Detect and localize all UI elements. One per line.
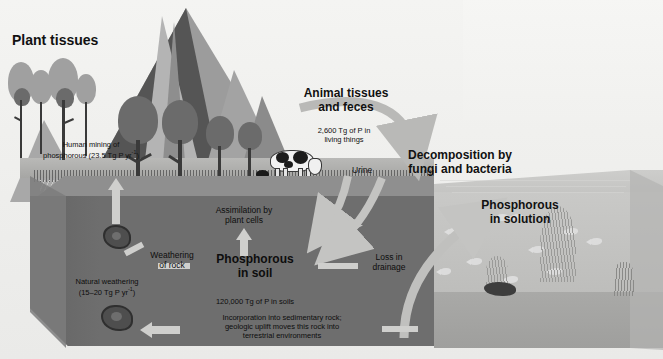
animal-tissues-line1: Animal tissues: [304, 86, 389, 100]
phosphorous-in-solution-line1: Phosphorous: [481, 198, 558, 212]
paper-tint: [463, 0, 663, 120]
water-right-bevel: [630, 170, 663, 350]
water-ripple: [452, 192, 624, 193]
fish-icon: [586, 238, 602, 245]
decomposition-line1: Decomposition by: [408, 148, 512, 162]
label-human-mining: Human mining of phosphorous (23.5 Tg P y…: [16, 140, 166, 160]
phosphorus-cycle-diagram: Plant tissues Human mining of phosphorou…: [0, 0, 663, 359]
natural-weathering-close: ): [133, 288, 136, 297]
decomposition-line2: fungi and bacteria: [408, 162, 511, 176]
water-ripple: [440, 180, 630, 181]
human-mining-close: ): [136, 151, 139, 160]
loss-drainage-line1: Loss in: [376, 252, 403, 262]
sedimentary-arrow-stem: [152, 326, 180, 334]
weathering-arrow-stem: [112, 188, 120, 224]
sedimentary-line3: terrestrial environments: [243, 331, 321, 340]
soil-to-drainage-bar: [318, 263, 358, 269]
anemone-icon: [614, 262, 634, 296]
natural-weathering-line2: (15–20 Tg P yr: [79, 288, 128, 297]
phosphorous-in-soil-line2: in soil: [238, 266, 273, 280]
label-plant-tissues: Plant tissues: [12, 32, 98, 49]
label-natural-weathering: Natural weathering (15–20 Tg P yr-1): [58, 277, 156, 297]
label-loss-in-drainage: Loss in drainage: [358, 252, 420, 272]
weathering-line1: Weathering: [150, 250, 193, 260]
fish-icon: [466, 258, 482, 265]
natural-weathering-line1: Natural weathering: [76, 277, 139, 286]
weathering-line2: of rock: [159, 260, 185, 270]
label-soil-pool: 120,000 Tg of P in soils: [180, 297, 330, 306]
label-weathering-of-rock: Weathering of rock: [136, 250, 208, 270]
label-decomposition: Decomposition by fungi and bacteria: [380, 148, 540, 177]
sedimentary-arrow-head: [140, 322, 152, 338]
water-floor: [434, 292, 663, 348]
living-things-line2: living things: [324, 135, 363, 144]
label-phosphorous-in-solution: Phosphorous in solution: [462, 198, 578, 227]
human-mining-line1: Human mining of: [63, 140, 120, 149]
fish-icon: [436, 268, 451, 275]
phosphorous-in-soil-line1: Phosphorous: [216, 252, 293, 266]
assimilation-line1: Assimilation by: [216, 205, 273, 215]
living-things-line1: 2,600 Tg of P in: [318, 126, 371, 135]
label-animal-tissues: Animal tissues and feces: [286, 86, 406, 115]
label-living-things-pool: 2,600 Tg of P in living things: [296, 126, 392, 144]
assimilation-line2: plant cells: [225, 215, 263, 225]
phosphorous-in-solution-line2: in solution: [490, 212, 551, 226]
water-ripple: [446, 186, 626, 187]
sedimentary-line2: geologic uplift moves this rock into: [225, 322, 339, 331]
animal-tissues-line2: and feces: [318, 100, 373, 114]
rock-icon: [103, 225, 131, 249]
sedimentary-bar-right: [382, 326, 418, 332]
loss-drainage-line2: drainage: [372, 262, 405, 272]
label-assimilation: Assimilation by plant cells: [192, 205, 296, 225]
sedimentary-line1: Incorporation into sedimentary rock;: [222, 313, 341, 322]
human-mining-line2: phosphorous (23.5 Tg P yr: [43, 151, 132, 160]
label-phosphorous-in-soil: Phosphorous in soil: [196, 252, 314, 281]
fish-icon: [444, 228, 460, 235]
label-sedimentary-rock: Incorporation into sedimentary rock; geo…: [182, 313, 382, 340]
label-urine: Urine: [352, 165, 372, 175]
